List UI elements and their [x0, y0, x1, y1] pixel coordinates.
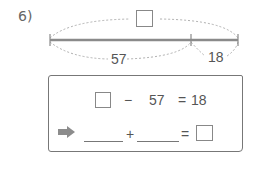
- minus-operator: −: [124, 93, 132, 107]
- result-18: 18: [191, 93, 207, 107]
- total-answer-box[interactable]: [136, 10, 153, 27]
- blank-2[interactable]: [137, 141, 179, 142]
- blank-1[interactable]: [84, 141, 123, 142]
- answer-box[interactable]: [196, 125, 213, 141]
- equals-sign-1: =: [178, 93, 186, 107]
- operand-57: 57: [149, 93, 165, 107]
- equals-sign-2: =: [181, 127, 189, 141]
- right-arrow-icon: [58, 126, 76, 138]
- left-segment-label: 57: [111, 52, 127, 66]
- right-segment-label: 18: [208, 50, 224, 64]
- unknown-box[interactable]: [95, 92, 111, 108]
- plus-operator: +: [126, 127, 134, 141]
